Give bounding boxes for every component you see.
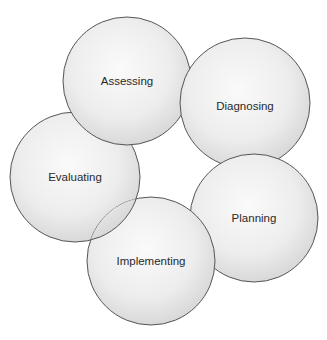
diagram-canvas: Evaluating Assessing Diagnosing Planning… [0, 0, 327, 340]
node-assessing: Assessing [63, 17, 191, 145]
node-label: Implementing [116, 255, 185, 267]
node-label: Diagnosing [216, 100, 274, 112]
cycle-diagram: Evaluating Assessing Diagnosing Planning… [0, 0, 327, 340]
node-label: Assessing [101, 75, 153, 87]
node-label: Planning [232, 212, 277, 224]
node-diagnosing: Diagnosing [180, 38, 310, 168]
node-label: Evaluating [48, 171, 102, 183]
